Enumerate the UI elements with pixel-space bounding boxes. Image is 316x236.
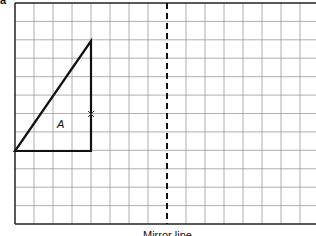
shape-label: A [57, 118, 64, 130]
mirror-line-label: Mirror line [143, 229, 192, 236]
grid-lines [15, 3, 316, 224]
grid-diagram [0, 0, 316, 236]
